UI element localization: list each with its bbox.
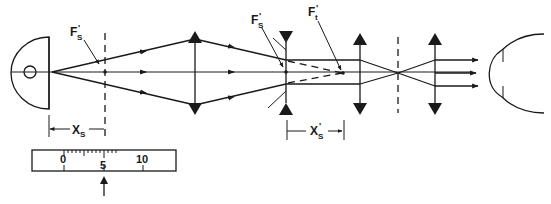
- optical-diagram: F S ' F S ': [0, 0, 551, 204]
- scale-pointer-arrow-icon: [100, 176, 108, 196]
- svg-text:S: S: [77, 33, 83, 42]
- dimension-xs-prime: X S ': [287, 120, 344, 141]
- svg-text:S: S: [258, 21, 264, 30]
- dimension-xs: X S: [49, 115, 104, 139]
- label-fs-prime-left: F S ': [70, 23, 99, 64]
- svg-text:': ': [319, 121, 321, 131]
- svg-text:': ': [259, 11, 261, 21]
- svg-text:t: t: [315, 13, 318, 22]
- label-fs-prime-mid: F S ': [251, 11, 283, 67]
- svg-text:X: X: [72, 123, 80, 137]
- svg-text:S: S: [318, 132, 324, 141]
- scale-tick-5: 5: [100, 159, 106, 171]
- eyepiece-lens: [428, 33, 442, 115]
- field-lens: [353, 33, 367, 115]
- observer-eye: [489, 34, 544, 113]
- output-rays: [435, 60, 478, 86]
- svg-text:X: X: [310, 124, 318, 138]
- diverging-lens: [268, 31, 293, 115]
- measuring-scale: 0 5 10: [32, 150, 176, 171]
- scale-tick-0: 0: [60, 153, 66, 165]
- objective-lens: [188, 31, 202, 115]
- scale-tick-10: 10: [136, 153, 148, 165]
- svg-text:S: S: [80, 130, 86, 139]
- object-eye-left: [11, 37, 49, 109]
- svg-text:': ': [316, 3, 318, 13]
- svg-text:': ': [78, 23, 80, 33]
